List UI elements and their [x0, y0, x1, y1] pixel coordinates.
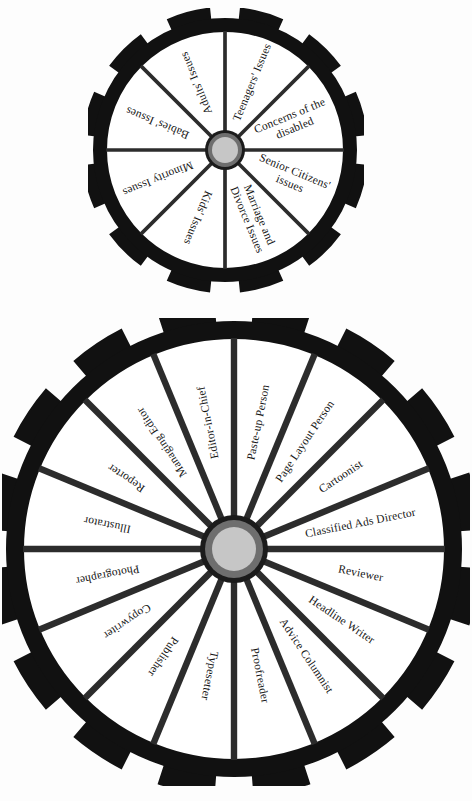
hub-center — [212, 527, 256, 571]
wheel-hub[interactable] — [200, 515, 268, 583]
page-canvas: Teenagers' IssuesConcerns of thedisabled… — [0, 0, 472, 801]
newspaper-roles-wheel[interactable]: Paste-up PersonPage Layout PersonCartoon… — [2, 318, 470, 786]
issues-wheel[interactable]: Teenagers' IssuesConcerns of thedisabled… — [88, 8, 364, 294]
hub-center — [212, 137, 238, 163]
wheel-hub[interactable] — [205, 130, 245, 170]
